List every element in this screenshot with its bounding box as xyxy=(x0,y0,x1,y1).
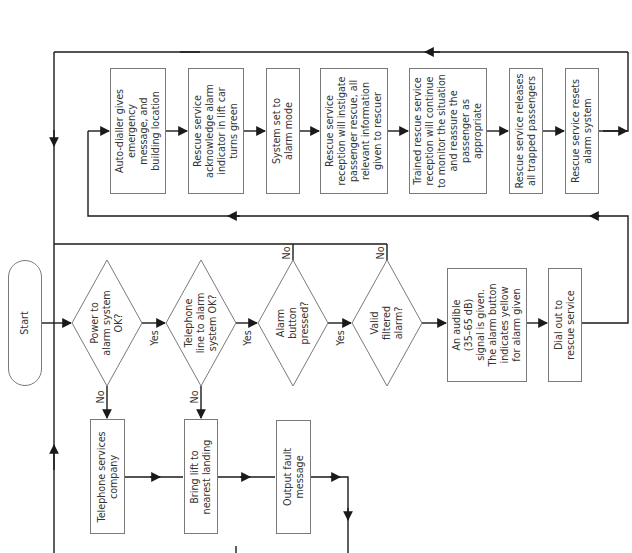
decision-alarm-button-pressed: Alarm button pressed? xyxy=(258,260,328,386)
process-label: Rescue service releases all trapped pass… xyxy=(514,74,538,189)
process-system-alarm-mode: System set to alarm mode xyxy=(266,68,300,194)
yes-label: Yes xyxy=(335,330,346,346)
process-reset-alarm: Rescue service resets alarm system xyxy=(565,68,599,194)
process-audible-signal: An audible (35–65 dB) signal is given. T… xyxy=(447,268,527,382)
process-bring-lift: Bring lift to nearest landing xyxy=(184,419,218,534)
decision-telephone-line-ok: Telephone line to alarm system OK? xyxy=(166,260,236,386)
process-release-passengers: Rescue service releases all trapped pass… xyxy=(509,68,543,194)
decision-label: Alarm button pressed? xyxy=(275,302,311,345)
start-terminator: Start xyxy=(8,260,42,386)
no-label: No xyxy=(375,246,386,259)
process-rescue-acknowledge: Rescue service acknowledge alarm indicat… xyxy=(188,68,244,194)
process-label: Dial out to rescue service xyxy=(553,290,577,359)
process-label: System set to alarm mode xyxy=(271,98,295,164)
process-trained-monitor: Trained rescue service reception will co… xyxy=(409,68,487,194)
process-label: An audible (35–65 dB) signal is given. T… xyxy=(451,283,523,366)
decision-label: Telephone line to alarm system OK? xyxy=(183,293,219,354)
process-label: Output fault message xyxy=(282,448,306,506)
process-label: Auto-dialler gives emergency message, an… xyxy=(114,89,162,173)
process-label: Trained rescue service reception will co… xyxy=(412,74,484,188)
process-rescue-reception: Rescue service reception will instigate … xyxy=(320,68,388,194)
yes-label: Yes xyxy=(242,330,253,346)
start-label: Start xyxy=(19,311,31,334)
process-label: Rescue service resets alarm system xyxy=(570,79,594,183)
process-label: Bring lift to nearest landing xyxy=(189,439,213,514)
process-label: Rescue service acknowledge alarm indicat… xyxy=(192,84,240,178)
yes-label: Yes xyxy=(149,330,160,346)
process-label: Telephone services company xyxy=(96,431,120,522)
decision-power-ok: Power to alarm system OK? xyxy=(72,260,142,386)
decision-label: Valid filtered alarm? xyxy=(369,306,405,340)
process-output-fault: Output fault message xyxy=(276,420,311,534)
process-auto-dialler: Auto-dialler gives emergency message, an… xyxy=(110,68,166,194)
decision-label: Power to alarm system OK? xyxy=(89,290,125,355)
decision-valid-filtered-alarm: Valid filtered alarm? xyxy=(352,260,422,386)
no-label: No xyxy=(95,390,106,403)
process-telephone-services: Telephone services company xyxy=(90,419,125,534)
no-label: No xyxy=(189,390,200,403)
process-dial-out: Dial out to rescue service xyxy=(548,268,582,382)
process-label: Rescue service reception will instigate … xyxy=(324,76,384,185)
no-label: No xyxy=(281,246,292,259)
